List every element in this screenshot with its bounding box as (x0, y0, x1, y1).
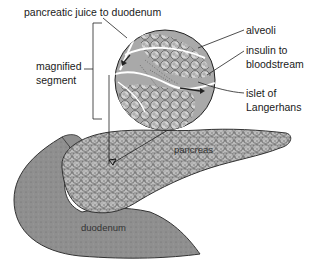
leader-alveoli (198, 30, 244, 48)
label-magnified-line2: segment (36, 74, 76, 86)
leader-pancreatic-juice (103, 18, 127, 38)
label-insulin-line1: insulin to (246, 44, 287, 56)
label-alveoli: alveoli (246, 24, 276, 36)
label-duodenum: duodenum (81, 222, 126, 233)
pancreas-diagram (0, 0, 313, 263)
label-pancreatic-juice: pancreatic juice to duodenum (24, 6, 161, 18)
label-islet-line2: Langerhans (246, 101, 301, 113)
label-insulin-line2: bloodstream (246, 58, 304, 70)
magnified-segment-circle (110, 30, 215, 131)
pancreas-shape (62, 129, 291, 213)
label-islet-line1: islet of (246, 87, 276, 99)
label-pancreas: pancreas (174, 144, 213, 155)
magnified-segment-bracket (93, 23, 102, 119)
label-magnified-line1: magnified (36, 60, 82, 72)
